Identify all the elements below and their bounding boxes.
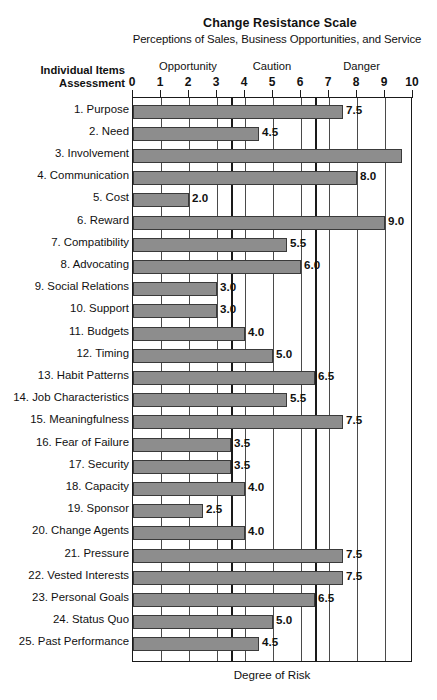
bar-value-label: 5.0	[276, 347, 292, 360]
category-label: 13. Habit Patterns	[1, 369, 129, 381]
bar-value-label: 5.5	[290, 391, 306, 404]
bar-row[interactable]: 2.0	[133, 189, 413, 211]
bar-12[interactable]	[133, 349, 273, 363]
category-label: 5. Cost	[1, 191, 129, 203]
category-label: 15. Meaningfulness	[1, 413, 129, 425]
bar-row[interactable]: 4.5	[133, 633, 413, 655]
x-tick-label-1: 1	[157, 75, 164, 89]
chart-subtitle: Perceptions of Sales, Business Opportuni…	[118, 33, 436, 45]
bar-row[interactable]: 5.0	[133, 345, 413, 367]
bar-15[interactable]	[133, 415, 343, 429]
y-axis-caption: Individual Items Assessment	[10, 64, 125, 90]
bar-row[interactable]: 6.0	[133, 256, 413, 278]
x-tick-label-7: 7	[325, 75, 332, 89]
bar-3[interactable]	[133, 149, 402, 163]
bar-25[interactable]	[133, 637, 259, 651]
bar-7[interactable]	[133, 238, 287, 252]
bar-value-label: 5.5	[290, 236, 306, 249]
bar-row[interactable]: 3.0	[133, 278, 413, 300]
bar-value-label: 6.0	[304, 258, 320, 271]
bar-row[interactable]: 9.0	[133, 212, 413, 234]
bar-row[interactable]: 4.0	[133, 323, 413, 345]
bar-1[interactable]	[133, 105, 343, 119]
y-axis-caption-line1: Individual Items	[40, 64, 125, 76]
zone-label-caution: Caution	[253, 60, 292, 72]
bar-value-label: 6.5	[318, 369, 334, 382]
bar-2[interactable]	[133, 127, 259, 141]
bar-row[interactable]: 7.5	[133, 567, 413, 589]
x-tick-label-6: 6	[297, 75, 304, 89]
bar-row[interactable]: 4.0	[133, 478, 413, 500]
bar-value-label: 8.0	[360, 169, 376, 182]
bar-18[interactable]	[133, 482, 245, 496]
bar-row[interactable]: 7.5	[133, 545, 413, 567]
bar-9[interactable]	[133, 282, 217, 296]
bar-value-label: 6.5	[318, 591, 334, 604]
bar-row[interactable]: 4.5	[133, 123, 413, 145]
x-tick-label-2: 2	[185, 75, 192, 89]
bar-value-label: 4.0	[248, 524, 264, 537]
bar-5[interactable]	[133, 193, 189, 207]
category-label: 7. Compatibility	[1, 236, 129, 248]
x-axis-title: Degree of Risk	[132, 668, 412, 681]
bar-row[interactable]: 5.0	[133, 611, 413, 633]
bar-value-label: 2.5	[206, 502, 222, 515]
category-label: 16. Fear of Failure	[1, 436, 129, 448]
category-label: 23. Personal Goals	[1, 591, 129, 603]
category-label: 1. Purpose	[1, 103, 129, 115]
bar-10[interactable]	[133, 304, 217, 318]
category-label: 19. Sponsor	[1, 502, 129, 514]
bar-14[interactable]	[133, 393, 287, 407]
bar-22[interactable]	[133, 571, 343, 585]
x-tick-label-10: 10	[405, 75, 418, 89]
bar-value-label: 3.5	[234, 458, 250, 471]
bar-4[interactable]	[133, 171, 357, 185]
bar-row[interactable]: 5.5	[133, 234, 413, 256]
category-label: 18. Capacity	[1, 480, 129, 492]
bar-row[interactable]: 6.5	[133, 367, 413, 389]
bar-24[interactable]	[133, 615, 273, 629]
bar-20[interactable]	[133, 526, 245, 540]
category-label: 20. Change Agents	[1, 524, 129, 536]
bar-11[interactable]	[133, 327, 245, 341]
bar-8[interactable]	[133, 260, 301, 274]
bar-16[interactable]	[133, 438, 231, 452]
y-axis-caption-line2: Assessment	[59, 77, 125, 89]
bar-row[interactable]: 6.5	[133, 589, 413, 611]
bar-value-label: 7.5	[346, 103, 362, 116]
bar-row[interactable]: 7.5	[133, 411, 413, 433]
category-label: 24. Status Quo	[1, 613, 129, 625]
bar-17[interactable]	[133, 460, 231, 474]
bar-row[interactable]: 5.5	[133, 389, 413, 411]
bar-value-label: 4.5	[262, 635, 278, 648]
x-tick-label-4: 4	[241, 75, 248, 89]
bar-value-label: 3.0	[220, 302, 236, 315]
bar-value-label: 7.5	[346, 547, 362, 560]
bar-value-label: 7.5	[346, 569, 362, 582]
bar-21[interactable]	[133, 549, 343, 563]
bar-23[interactable]	[133, 593, 315, 607]
bar-13[interactable]	[133, 371, 315, 385]
bar-row[interactable]: 3.5	[133, 456, 413, 478]
category-label: 14. Job Characteristics	[1, 391, 129, 403]
category-label: 21. Pressure	[1, 547, 129, 559]
bar-row[interactable]: 8.0	[133, 167, 413, 189]
category-label: 12. Timing	[1, 347, 129, 359]
category-label: 9. Social Relations	[1, 280, 129, 292]
bar-row[interactable]: 3.0	[133, 300, 413, 322]
category-label: 11. Budgets	[1, 325, 129, 337]
bar-value-label: 4.5	[262, 125, 278, 138]
x-tick-label-3: 3	[213, 75, 220, 89]
bar-row[interactable]: 4.0	[133, 522, 413, 544]
bar-row[interactable]	[133, 145, 413, 167]
x-tick-label-9: 9	[381, 75, 388, 89]
bar-value-label: 4.0	[248, 325, 264, 338]
bar-19[interactable]	[133, 504, 203, 518]
bar-row[interactable]: 2.5	[133, 500, 413, 522]
bar-value-label: 5.0	[276, 613, 292, 626]
bar-value-label: 9.0	[388, 214, 404, 227]
bar-row[interactable]: 7.5	[133, 101, 413, 123]
bar-6[interactable]	[133, 216, 385, 230]
bar-value-label: 4.0	[248, 480, 264, 493]
bar-row[interactable]: 3.5	[133, 434, 413, 456]
